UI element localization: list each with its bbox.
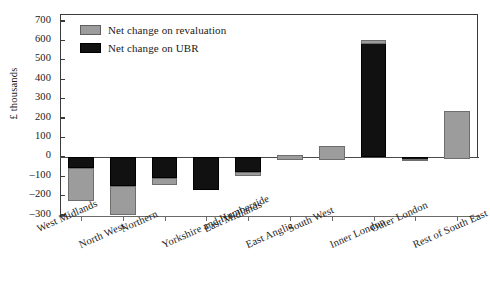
bar-group	[277, 0, 303, 292]
y-tick-label: 400	[35, 72, 51, 83]
x-tick-mark	[165, 216, 166, 221]
y-axis-title: £ thousands	[8, 48, 19, 140]
bar-segment-revaluation	[444, 111, 470, 160]
y-tick-mark	[60, 40, 65, 41]
bar-segment-revaluation	[402, 159, 428, 161]
bar-segment-revaluation	[110, 186, 136, 215]
y-tick-label: 100	[35, 130, 51, 141]
bar-segment-ubr	[68, 157, 94, 169]
y-tick-mark	[60, 176, 65, 177]
bar-segment-ubr	[193, 157, 219, 190]
legend-label-revaluation: Net change on revaluation	[108, 24, 226, 36]
bar-segment-revaluation	[319, 146, 345, 160]
gray-swatch-icon	[80, 25, 101, 35]
y-tick-label: 500	[35, 52, 51, 63]
x-tick-mark	[415, 216, 416, 221]
bar-segment-revaluation	[235, 172, 261, 176]
bar-segment-revaluation	[361, 40, 387, 44]
y-tick-label: –300	[30, 208, 51, 219]
x-tick-mark	[123, 216, 124, 221]
x-tick-mark	[332, 216, 333, 221]
y-tick-mark	[60, 79, 65, 80]
legend-item-ubr: Net change on UBR	[80, 40, 226, 56]
black-swatch-icon	[80, 43, 101, 53]
bar-segment-ubr	[152, 157, 178, 178]
legend-label-ubr: Net change on UBR	[108, 42, 199, 54]
y-tick-mark	[60, 59, 65, 60]
y-tick-mark	[60, 137, 65, 138]
bar-segment-ubr	[235, 157, 261, 173]
bar-group	[444, 0, 470, 292]
bar-segment-revaluation	[152, 178, 178, 185]
plot-frame-right	[477, 14, 478, 157]
y-tick-label: 0	[46, 149, 51, 160]
bar-segment-ubr	[361, 40, 387, 156]
bar-segment-revaluation	[277, 155, 303, 159]
y-tick-label: –200	[30, 188, 51, 199]
y-tick-label: 200	[35, 111, 51, 122]
bar-segment-revaluation	[68, 168, 94, 201]
y-tick-label: 300	[35, 91, 51, 102]
chart-legend: Net change on revaluation Net change on …	[80, 22, 226, 58]
y-tick-label: 600	[35, 33, 51, 44]
y-tick-label: 700	[35, 14, 51, 25]
y-tick-mark	[60, 98, 65, 99]
bar-chart: £ thousands 7006005004003002001000–100–2…	[0, 0, 490, 292]
y-tick-mark	[60, 20, 65, 21]
y-tick-mark	[60, 117, 65, 118]
y-tick-label: –100	[30, 169, 51, 180]
y-tick-mark	[60, 195, 65, 196]
x-tick-mark	[248, 216, 249, 221]
x-tick-mark	[81, 216, 82, 221]
bar-group	[361, 0, 387, 292]
legend-item-revaluation: Net change on revaluation	[80, 22, 226, 38]
bar-segment-ubr	[110, 157, 136, 186]
